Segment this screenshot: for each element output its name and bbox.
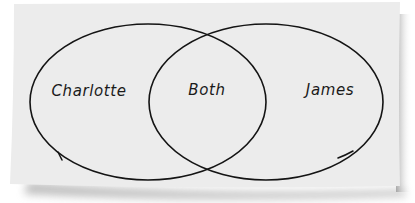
set-left-label: Charlotte bbox=[51, 82, 126, 100]
venn-diagram-sticky-note: Charlotte Both James bbox=[0, 0, 415, 203]
intersection-label: Both bbox=[188, 81, 225, 99]
set-right-label: James bbox=[306, 81, 354, 99]
venn-diagram-canvas bbox=[0, 0, 415, 203]
